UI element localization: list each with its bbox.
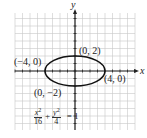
point-label-left: (−4, 0) [14, 57, 41, 67]
fraction-y: y2 4 [52, 106, 61, 126]
point-label-bottom: (0, −2) [34, 88, 61, 98]
ellipse-equation: x2 16 + y2 4 = 1 [33, 106, 78, 126]
equation-rhs: = 1 [67, 111, 79, 121]
denominator-4: 4 [53, 118, 59, 126]
x-axis-label: x [140, 66, 144, 76]
point-label-right: (4, 0) [104, 74, 126, 84]
exponent: 2 [57, 107, 60, 113]
plus-sign: + [45, 111, 50, 121]
fraction-x: x2 16 [33, 106, 43, 126]
denominator-16: 16 [33, 118, 43, 126]
y-axis-label: y [71, 0, 75, 10]
point-label-top: (0, 2) [79, 46, 101, 56]
exponent: 2 [38, 107, 41, 113]
